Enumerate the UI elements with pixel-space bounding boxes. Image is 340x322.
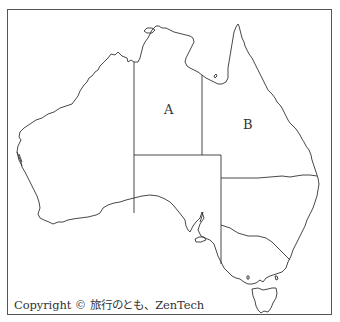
region-label-b: B [243, 117, 253, 132]
qld-nsw-border [221, 175, 317, 178]
australia-map [0, 0, 340, 322]
copyright-notice: Copyright © 旅行のとも、ZenTech [14, 296, 204, 312]
gulf-island [214, 74, 217, 78]
region-label-a: A [164, 102, 173, 117]
tiwi-islands [144, 28, 155, 33]
nsw-vic-border [221, 225, 290, 260]
kangaroo-island [195, 237, 206, 242]
flinders-island [275, 276, 278, 280]
tasmania [252, 288, 277, 313]
king-island [247, 276, 249, 279]
mainland-coastline [17, 24, 319, 284]
